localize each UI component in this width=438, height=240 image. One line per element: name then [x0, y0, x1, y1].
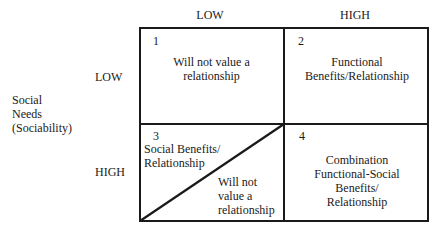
cell-text-line: Benefits/Relationship	[292, 69, 422, 83]
cell-number: 3	[153, 129, 159, 143]
cell-upper-text-line: Relationship	[144, 156, 205, 170]
cell-text-line: Relationship	[292, 195, 422, 209]
cell-text-line: Combination	[292, 153, 422, 167]
cell-number: 4	[299, 129, 305, 143]
cell-lower-text-line: Will not	[218, 175, 257, 189]
cell-lower-text-line: value a	[218, 189, 252, 203]
cell-text-line: Benefits/	[292, 181, 422, 195]
cell-text-line: Functional-Social	[292, 167, 422, 181]
cell-upper-text-line: Social Benefits/	[144, 142, 220, 156]
cell-lower-text-line: relationship	[218, 203, 275, 217]
cell-text-line: Will not value a	[150, 55, 273, 69]
cell-text-line: relationship	[150, 69, 273, 83]
cell-number: 2	[298, 34, 304, 48]
cell-text-line: Functional	[292, 55, 422, 69]
cell-number: 1	[153, 34, 159, 48]
